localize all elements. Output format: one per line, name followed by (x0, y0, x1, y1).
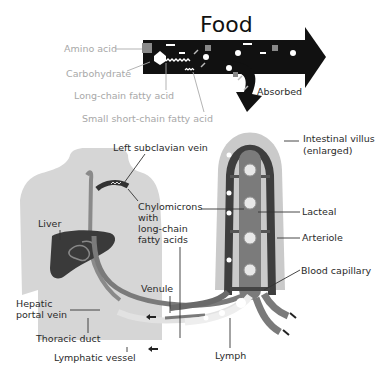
label-intestinal-villus-2: (enlarged) (303, 145, 352, 156)
label-hepatic-2: portal vein (16, 309, 67, 320)
label-carbohydrate: Carbohydrate (66, 68, 131, 79)
label-blood-capillary: Blood capillary (301, 265, 372, 276)
label-lymphatic-vessel: Lymphatic vessel (54, 352, 136, 363)
label-amino-acid: Amino acid (64, 43, 117, 54)
label-chylomicrons-2: with (138, 212, 158, 223)
label-chylomicrons-1: Chylomicrons (138, 201, 202, 212)
label-chylomicrons-4: fatty acids (138, 234, 188, 245)
label-long-chain-fatty-acid: Long-chain fatty acid (74, 90, 174, 101)
label-small-short-chain-fatty-acid: Small short-chain fatty acid (82, 113, 213, 124)
digestion-absorption-diagram: Food Amino acid Carbohydrate Long-chain … (0, 0, 390, 379)
label-arteriole: Arteriole (302, 232, 343, 243)
amino-acid-square (142, 43, 152, 53)
label-intestinal-villus-1: Intestinal villus (303, 133, 375, 144)
label-hepatic-1: Hepatic (16, 298, 52, 309)
label-absorbed: Absorbed (257, 86, 302, 97)
label-venule: Venule (141, 283, 173, 294)
label-thoracic-duct: Thoracic duct (35, 333, 101, 344)
label-left-subclavian-vein: Left subclavian vein (113, 142, 208, 153)
intestinal-villus (215, 133, 285, 301)
label-lymph: Lymph (215, 350, 246, 361)
label-lacteal: Lacteal (302, 206, 336, 217)
diagram-title: Food (200, 12, 253, 37)
label-liver: Liver (38, 218, 61, 229)
label-chylomicrons-3: long-chain (138, 223, 188, 234)
